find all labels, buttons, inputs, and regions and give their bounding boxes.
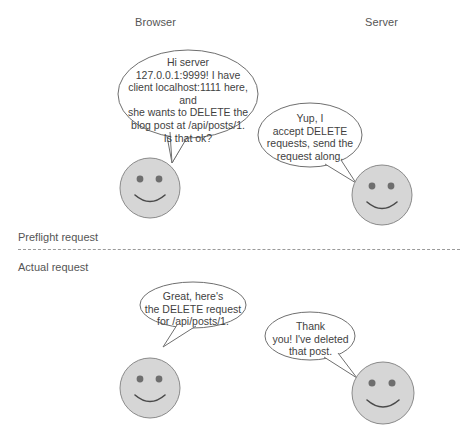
speech-bubble-2-body [258,103,362,167]
diagram-artwork [0,0,472,440]
speech-bubble-3-body [140,282,246,328]
smiley-face-icon-server-preflight [352,165,412,225]
speech-bubble-3 [140,282,246,347]
speech-bubble-4-tail [324,353,357,378]
speech-bubble-2-tail [325,160,356,183]
speech-bubble-4 [265,312,357,378]
speech-bubble-1-body [118,50,258,138]
speech-bubble-4-body [265,312,355,360]
speech-bubble-1 [118,50,258,163]
speech-bubble-2 [258,103,362,183]
smiley-face-icon-server-actual [352,362,414,424]
cors-sequence-diagram: Browser Server Preflight request Actual … [0,0,472,440]
speech-bubble-3-tail [163,325,196,347]
speech-bubble-1-tail-outline [170,132,188,163]
smiley-face-icon-browser-preflight [120,158,180,218]
smiley-face-icon-browser-actual [120,358,180,418]
